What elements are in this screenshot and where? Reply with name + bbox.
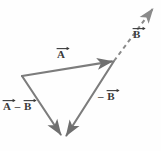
minus-sign-neg-b: – <box>97 91 105 102</box>
vector-arrow-overline-icon <box>106 88 120 92</box>
minus-sign-difference: – <box>14 101 22 112</box>
vector-arrow-overline-icon <box>132 26 146 30</box>
vector-diagram: A B – B A – <box>0 0 161 151</box>
vector-a-line <box>22 61 112 76</box>
symbol-b: B <box>133 26 140 40</box>
symbol-neg-b: B <box>107 88 114 102</box>
label-vector-a-minus-b: A – B <box>3 98 31 112</box>
label-vector-a: A <box>57 46 65 60</box>
symbol-a: A <box>57 46 65 60</box>
vector-canvas <box>0 0 161 151</box>
vector-arrow-overline-icon <box>23 98 37 102</box>
symbol-b-in-difference: B <box>24 98 31 112</box>
label-vector-b: B <box>133 26 140 40</box>
symbol-a-in-difference: A <box>3 98 11 112</box>
vector-arrow-overline-icon <box>56 46 70 50</box>
vector-arrow-overline-icon <box>2 98 16 102</box>
label-vector-neg-b: – B <box>97 88 115 102</box>
